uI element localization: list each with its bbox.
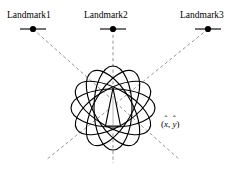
estimate-paren-close: ) (177, 119, 180, 129)
landmark-label-3: Landmark3 (180, 11, 224, 21)
landmark-label-2: Landmark2 (84, 11, 128, 21)
robot-pose-triangle (106, 88, 121, 126)
localization-diagram: Landmark1 Landmark2 Landmark3 (ˆx, ˆy) (0, 0, 249, 172)
landmark-marker-3[interactable] (195, 26, 221, 32)
bearing-line-landmark-1 (33, 29, 180, 160)
landmark-marker-2[interactable] (100, 26, 126, 32)
estimate-y-hat: ˆy (173, 120, 177, 129)
diagram-canvas (0, 0, 249, 172)
x-hat-accent: ˆ (164, 116, 168, 124)
landmark-markers-group (20, 26, 221, 32)
landmark-marker-1[interactable] (20, 26, 46, 32)
estimate-x-hat: ˆx (164, 120, 168, 129)
y-hat-accent: ˆ (173, 116, 177, 124)
estimate-coordinate-label: (ˆx, ˆy) (161, 120, 180, 129)
landmark-label-1: Landmark1 (7, 11, 51, 21)
